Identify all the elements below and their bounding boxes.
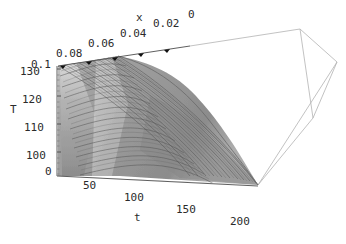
t-tick-200: 200 (230, 216, 250, 227)
T-tick-100: 100 (26, 150, 46, 161)
t-tick-0: 0 (45, 166, 52, 177)
surface-plot-figure: x 0.1 0.08 0.06 0.04 0.02 0 T 130 120 11… (0, 0, 346, 244)
x-tick-0.04: 0.04 (120, 28, 147, 39)
plot-canvas (0, 0, 346, 244)
t-axis-title: t (134, 212, 141, 223)
t-tick-150: 150 (176, 204, 196, 215)
T-tick-110: 110 (24, 122, 44, 133)
x-tick-0.08: 0.08 (56, 48, 83, 59)
T-tick-120: 120 (22, 94, 42, 105)
x-tick-0.06: 0.06 (88, 38, 115, 49)
T-axis-title: T (10, 104, 17, 115)
t-tick-50: 50 (83, 180, 96, 191)
x-tick-0.02: 0.02 (153, 18, 180, 29)
surface-mesh (58, 55, 258, 189)
x-axis-title: x (136, 12, 143, 23)
T-tick-130: 130 (20, 66, 40, 77)
t-tick-100: 100 (124, 192, 144, 203)
x-tick-0: 0 (188, 9, 195, 20)
